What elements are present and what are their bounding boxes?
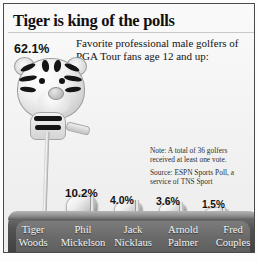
category-label-line1: Jack xyxy=(108,224,158,237)
tiger-stripe-icon xyxy=(35,125,61,130)
infographic-root: Tiger is king of the polls Favorite prof… xyxy=(0,0,258,262)
category-label-tiger-woods: Tiger Woods xyxy=(8,223,58,253)
tiger-stripe-icon xyxy=(19,74,38,82)
tiger-stripe-icon xyxy=(53,60,62,73)
deck-text: Favorite professional male golfers of PG… xyxy=(76,37,254,62)
category-label-line1: Arnold xyxy=(158,224,208,237)
tiger-stripe-icon xyxy=(34,116,62,121)
value-label-jack-nicklaus: 4.0% xyxy=(110,194,134,206)
tiger-eye-left-icon xyxy=(39,78,45,84)
category-label-phil-mickelson: Phil Mickelson xyxy=(58,223,108,253)
tiger-stripe-icon xyxy=(64,74,83,82)
infographic-frame: Tiger is king of the polls Favorite prof… xyxy=(3,3,255,253)
category-label-arnold-palmer: Arnold Palmer xyxy=(158,223,208,253)
category-label-line2: Nicklaus xyxy=(108,237,158,250)
note-text: Note: A total of 36 golfers received at … xyxy=(150,147,254,164)
value-label-fred-couples: 1.5% xyxy=(202,199,225,210)
golf-shaft-tiger-icon xyxy=(43,132,50,214)
category-label-line1: Tiger xyxy=(8,224,58,237)
category-label-line2: Mickelson xyxy=(58,237,108,250)
category-label-jack-nicklaus: Jack Nicklaus xyxy=(108,223,158,253)
tiger-stripe-icon xyxy=(65,86,81,93)
tiger-nose-icon xyxy=(48,87,64,100)
source-text: Source: ESPN Sports Poll, a service of T… xyxy=(150,169,254,186)
tiger-stripe-icon xyxy=(20,86,36,93)
category-label-line1: Phil xyxy=(58,224,108,237)
category-label-line2: Palmer xyxy=(158,237,208,250)
category-label-row: Tiger Woods Phil Mickelson Jack Nicklaus… xyxy=(8,223,255,253)
category-label-fred-couples: Fred Couples xyxy=(208,223,255,253)
tiger-stripe-icon xyxy=(41,60,50,73)
value-label-arnold-palmer: 3.6% xyxy=(156,195,180,207)
tiger-head-icon xyxy=(17,58,85,120)
title-divider xyxy=(8,32,255,33)
value-label-phil-mickelson: 10.2% xyxy=(65,187,98,199)
golf-bag-lip xyxy=(8,211,255,220)
value-label-tiger-woods: 62.1% xyxy=(14,42,49,56)
tiger-eye-right-icon xyxy=(59,78,65,84)
category-label-line2: Woods xyxy=(8,237,58,250)
page-title: Tiger is king of the polls xyxy=(13,11,175,31)
category-label-line1: Fred xyxy=(208,224,255,237)
category-label-line2: Couples xyxy=(208,237,255,250)
